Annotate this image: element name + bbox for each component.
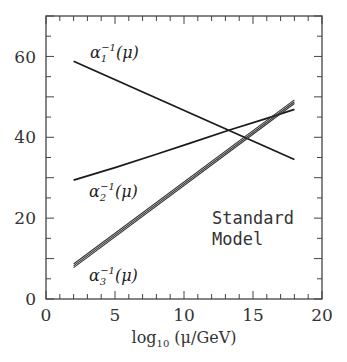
plot-frame (46, 16, 322, 299)
annotation-standard: Standard (212, 208, 294, 228)
y-tick-label: 60 (14, 47, 36, 67)
axis-ticks (46, 16, 322, 299)
x-axis-label: log10 (μ/GeV) (132, 328, 237, 349)
y-tick-label: 0 (25, 289, 36, 309)
x-tick-label: 0 (41, 305, 52, 325)
x-tick-label: 20 (311, 305, 333, 325)
coupling-unification-chart: 0 20 40 60 0 5 10 15 20 log10 (μ/GeV) α1… (0, 0, 347, 362)
annotation-model: Model (212, 229, 263, 249)
x-tick-label: 15 (242, 305, 264, 325)
x-tick-label: 10 (173, 305, 195, 325)
y-tick-label: 40 (14, 127, 36, 147)
series-label-alpha3: α3−1(μ) (89, 265, 138, 287)
series-label-alpha1: α1−1(μ) (90, 42, 139, 64)
x-tick-label: 5 (110, 305, 121, 325)
series-label-alpha2: α2−1(μ) (89, 181, 138, 203)
y-tick-label: 20 (14, 208, 36, 228)
y-tick-labels: 0 20 40 60 (14, 47, 36, 309)
x-tick-labels: 0 5 10 15 20 (41, 305, 333, 325)
